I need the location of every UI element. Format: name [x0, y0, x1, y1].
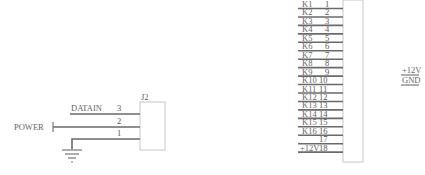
- schematic: J2 DATAIN 3 POWER 2 1 K11K22K33K44K55K66…: [0, 0, 425, 175]
- connector-right: K11K22K33K44K55K66K77K88K99K1010K1111K12…: [298, 0, 363, 162]
- pin1-number: 1: [117, 128, 121, 138]
- row-pin-number: 18: [319, 143, 328, 153]
- pin2-number: 2: [117, 116, 121, 126]
- power-labels: +12V GND: [401, 65, 422, 85]
- row-net-label: K16: [302, 126, 317, 136]
- right-connector-body: [343, 0, 363, 162]
- datain-label: DATAIN: [71, 103, 102, 113]
- ground-icon: [62, 150, 82, 162]
- pin3-number: 3: [117, 103, 121, 113]
- power-label-12v: +12V: [402, 65, 422, 75]
- power-label-gnd: GND: [402, 75, 420, 85]
- connector-j2: J2 DATAIN 3 POWER 2 1: [14, 92, 165, 162]
- wire-pin1: [72, 139, 140, 149]
- right-connector-rows: K11K22K33K44K55K66K77K88K99K1010K1111K12…: [298, 0, 343, 153]
- row-net-label: +12V: [300, 143, 320, 153]
- j2-body: [140, 102, 165, 150]
- j2-ref: J2: [141, 92, 149, 102]
- power-label: POWER: [14, 122, 44, 132]
